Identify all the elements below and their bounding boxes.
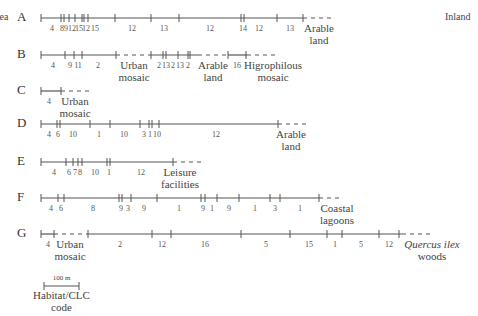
habitat-code: 13 [176, 61, 184, 70]
land-use-label: Arableland [276, 128, 306, 152]
habitat-code: 3 [142, 130, 146, 139]
habitat-code: 12 [212, 130, 220, 139]
habitat-code: 2 [157, 61, 161, 70]
habitat-code: 6 [59, 204, 63, 213]
habitat-code: 2 [96, 61, 100, 70]
habitat-code: 5 [264, 240, 268, 249]
land-use-label: Arableland [198, 59, 228, 83]
legend-caption: Habitat/CLCcode [33, 289, 90, 313]
land-use-label-line: land [304, 34, 334, 46]
land-use-label-line: mosaic [59, 107, 90, 119]
transect-C [41, 87, 92, 95]
habitat-code: 2 [186, 61, 190, 70]
land-use-label-line: Arable [304, 22, 334, 34]
habitat-code: 1 [333, 240, 337, 249]
habitat-code: 9 [119, 204, 123, 213]
habitat-code: 10 [120, 130, 128, 139]
habitat-code: 1 [298, 204, 302, 213]
habitat-code: 16 [201, 240, 209, 249]
land-use-label-line: Urban [59, 95, 90, 107]
land-use-label-line: mosaic [244, 71, 302, 83]
habitat-code: 13 [160, 24, 168, 33]
habitat-code: 10 [153, 130, 161, 139]
habitat-code: 3 [273, 204, 277, 213]
transect-label: G [17, 225, 26, 241]
land-use-label-line: Arable [198, 59, 228, 71]
habitat-code: 12 [206, 24, 214, 33]
habitat-code: 5 [359, 240, 363, 249]
habitat-code: 14 [239, 24, 247, 33]
land-use-label-line: facilities [161, 178, 199, 190]
land-use-label: Urbanmosaic [54, 238, 85, 262]
habitat-code: 9 [68, 61, 72, 70]
transect-label: F [17, 189, 24, 205]
land-use-label: Urbanmosaic [59, 95, 90, 119]
habitat-code: 9 [142, 204, 146, 213]
habitat-code: 15 [305, 240, 313, 249]
habitat-code: 2 [118, 240, 122, 249]
transect-E [41, 158, 204, 166]
habitat-code: 12 [82, 24, 90, 33]
land-use-label-line: Coastal [320, 202, 354, 214]
habitat-code: 1 [177, 204, 181, 213]
land-use-label: Arableland [304, 22, 334, 46]
transect-label: B [17, 46, 26, 62]
habitat-code: 6 [67, 168, 71, 177]
transect-diagram [0, 0, 478, 316]
land-use-label-line: mosaic [118, 71, 149, 83]
habitat-code: 3 [126, 204, 130, 213]
habitat-code: 7 [73, 168, 77, 177]
habitat-code: 15 [91, 24, 99, 33]
land-use-label-line: Arable [276, 128, 306, 140]
habitat-code: 11 [74, 61, 82, 70]
transect-G [41, 230, 430, 238]
habitat-code: 12 [128, 24, 136, 33]
inland-label: Inland [445, 11, 471, 22]
land-use-label-line: land [198, 71, 228, 83]
habitat-code: 12 [385, 240, 393, 249]
transect-label: C [17, 82, 26, 98]
land-use-label-line: Leisure [161, 166, 199, 178]
habitat-code: 9 [201, 204, 205, 213]
transect-label: E [17, 153, 25, 169]
habitat-code: 4 [49, 204, 53, 213]
land-use-label: Coastallagoons [320, 202, 354, 226]
land-use-label-line: lagoons [320, 214, 354, 226]
habitat-code: 4 [47, 130, 51, 139]
habitat-code: 1 [97, 130, 101, 139]
habitat-code: 1 [253, 204, 257, 213]
scale-bar-label: 100 m [53, 274, 71, 282]
transect-D [41, 120, 310, 128]
habitat-code: 4 [46, 240, 50, 249]
habitat-code: 4 [47, 97, 51, 106]
habitat-code: 10 [91, 168, 99, 177]
land-use-label: Urbanmosaic [118, 59, 149, 83]
habitat-code: 1 [148, 130, 152, 139]
habitat-code: 6 [56, 130, 60, 139]
land-use-label-line: land [276, 140, 306, 152]
habitat-code: 16 [233, 61, 241, 70]
habitat-code: 13 [162, 61, 170, 70]
habitat-code: 12 [255, 24, 263, 33]
transect-B [41, 51, 278, 59]
land-use-label-line: Urban [118, 59, 149, 71]
habitat-code: 4 [52, 168, 56, 177]
land-use-label-line: woods [404, 250, 460, 262]
habitat-code: 13 [286, 24, 294, 33]
transect-A [41, 14, 335, 22]
land-use-label-line: Higrophilous [244, 59, 302, 71]
land-use-label: Leisurefacilities [161, 166, 199, 190]
land-use-label: Higrophilousmosaic [244, 59, 302, 83]
habitat-code: 8 [91, 204, 95, 213]
transect-label: D [17, 115, 26, 131]
habitat-code: 4 [50, 24, 54, 33]
sea-label: Sea [0, 11, 8, 22]
land-use-label: Quercus ilexwoods [404, 238, 460, 262]
transect-F [41, 194, 340, 202]
transect-label: A [17, 9, 26, 25]
land-use-label-line: mosaic [54, 250, 85, 262]
legend-caption-line: Habitat/CLC [33, 289, 90, 301]
habitat-code: 1 [210, 204, 214, 213]
habitat-code: 10 [69, 130, 77, 139]
legend-caption-line: code [33, 301, 90, 313]
